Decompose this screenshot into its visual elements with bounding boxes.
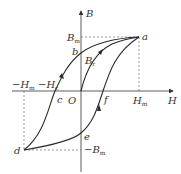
br-label: Br <box>84 55 95 67</box>
point-a-label: a <box>142 31 148 42</box>
bm-label: Bm <box>66 32 80 44</box>
y-axis-label: B <box>85 8 93 19</box>
neg-hc-label: −Hc <box>38 79 59 91</box>
origin-label: O <box>68 95 76 106</box>
point-f-label: f <box>103 94 110 105</box>
neg-bm-label: −Bm <box>84 144 106 156</box>
hysteresis-curves <box>24 37 139 150</box>
hm-label: Hm <box>132 95 148 107</box>
point-d-label: d <box>14 145 20 156</box>
point-e-label: e <box>84 131 90 142</box>
x-axis-label: H <box>167 95 177 106</box>
point-c-label: c <box>57 94 63 105</box>
lower-branch-curve <box>24 37 139 150</box>
neg-hm-label: −Hm <box>12 79 35 91</box>
point-b-label: b <box>72 46 78 57</box>
hysteresis-diagram: B H O Bm −Bm Hm −Hm −Hc Br a b c d e f <box>0 0 181 174</box>
